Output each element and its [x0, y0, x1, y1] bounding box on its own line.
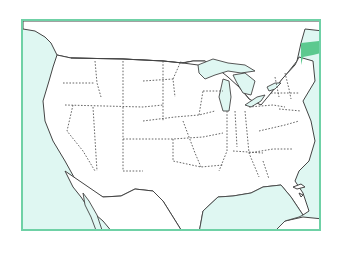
map-frame — [21, 19, 321, 231]
us-map — [23, 21, 321, 231]
